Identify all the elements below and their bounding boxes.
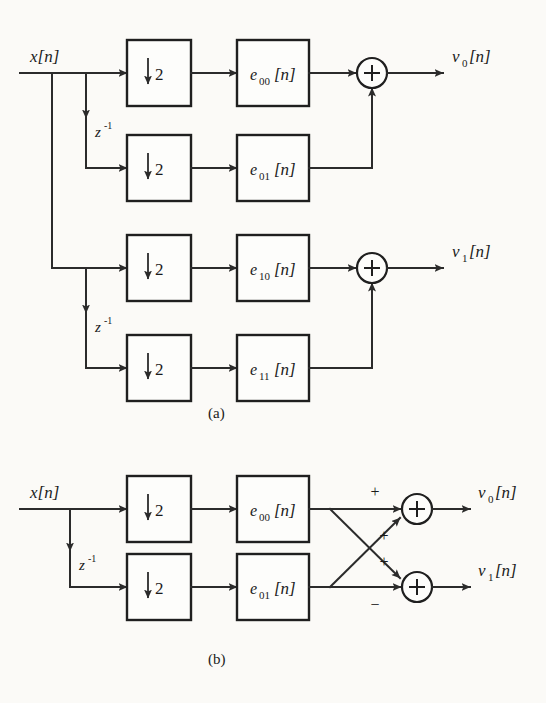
panel-a-adder-1 [357,58,443,88]
output-label-bracket: [n] [495,561,517,580]
output-label-base: v [452,47,460,66]
filter-block [237,235,309,301]
panel-b-butterfly-wiring [309,509,401,587]
adder-sign-bottom-minus: − [370,596,379,613]
filter-label-base: e [250,361,257,378]
filter-block [237,554,309,620]
figure-container: x[n] z -1 z -1 2 e 00 [n] [0,0,546,703]
filter-label-base: e [250,502,257,519]
downsampler-factor-label: 2 [155,501,164,520]
output-label-bracket: [n] [495,483,517,502]
adder-sign-top-plus: + [370,483,379,500]
filter-label-subscript: 00 [259,511,271,523]
panel-a-input-label: x[n] [29,47,59,66]
panel-b-branch-1: 2 e 00 [n] [127,476,309,542]
delay-z-label: z [94,319,101,335]
downsampler-factor-label: 2 [155,160,164,179]
delay-exponent-label: -1 [88,553,96,564]
filter-label-base: e [250,580,257,597]
filter-label-bracket: [n] [274,260,296,279]
filter-label-base: e [250,161,257,178]
panel-a-branch-3: 2 e 10 [n] [127,235,356,301]
panel-a: x[n] z -1 z -1 2 e 00 [n] [20,40,491,422]
delay-z-label: z [94,124,101,140]
panel-b-branch-2: 2 e 01 [n] [127,554,309,620]
block-diagram-svg: x[n] z -1 z -1 2 e 00 [n] [0,0,546,703]
panel-b-caption: (b) [208,651,226,668]
panel-a-output-1: v 0 [n] [452,47,491,69]
downsampler-factor-label: 2 [155,360,164,379]
output-label-subscript: 0 [462,57,468,69]
panel-b: x[n] z -1 2 e 00 [n] 2 [20,476,517,668]
panel-b-input-wiring [20,509,127,587]
panel-a-delay-label-1: z -1 [94,120,112,140]
input-signal-label: x[n] [29,47,59,66]
panel-b-output-2: v 1 [n] [478,561,517,583]
filter-label-base: e [250,261,257,278]
output-label-subscript: 1 [488,571,494,583]
downsampler-factor-label: 2 [155,579,164,598]
output-label-base: v [452,242,460,261]
delay-z-label: z [78,557,85,573]
filter-label-base: e [250,66,257,83]
input-signal-label: x[n] [29,483,59,502]
filter-label-bracket: [n] [274,360,296,379]
filter-label-subscript: 10 [259,270,271,282]
filter-block [237,40,309,106]
panel-a-output-2: v 1 [n] [452,242,491,264]
panel-b-adder-1 [402,494,470,524]
panel-b-sign-labels: + + + − [370,483,388,613]
panel-b-input-label: x[n] [29,483,59,502]
filter-label-bracket: [n] [274,65,296,84]
filter-label-bracket: [n] [274,160,296,179]
panel-a-delay-label-2: z -1 [94,315,112,335]
filter-block [237,335,309,401]
panel-a-caption: (a) [208,405,225,422]
output-label-base: v [478,483,486,502]
filter-block [237,476,309,542]
downsampler-factor-label: 2 [155,260,164,279]
adder-sign-top-bottom-plus: + [379,527,388,544]
output-label-base: v [478,561,486,580]
output-label-subscript: 1 [462,252,468,264]
filter-label-subscript: 01 [259,589,270,601]
filter-label-bracket: [n] [274,501,296,520]
panel-b-delay-label: z -1 [78,553,96,573]
output-label-subscript: 0 [488,493,494,505]
panel-a-branch-1: 2 e 00 [n] [127,40,356,106]
output-label-bracket: [n] [469,47,491,66]
output-label-bracket: [n] [469,242,491,261]
filter-label-subscript: 00 [259,75,271,87]
filter-label-subscript: 11 [259,370,270,382]
panel-a-adder-2 [357,253,443,283]
downsampler-factor-label: 2 [155,65,164,84]
adder-sign-bottom-top-plus: + [379,553,388,570]
panel-b-output-1: v 0 [n] [478,483,517,505]
panel-b-adder-2 [402,572,470,602]
filter-block [237,135,309,201]
delay-exponent-label: -1 [104,120,112,131]
filter-label-bracket: [n] [274,579,296,598]
delay-exponent-label: -1 [104,315,112,326]
filter-label-subscript: 01 [259,170,270,182]
